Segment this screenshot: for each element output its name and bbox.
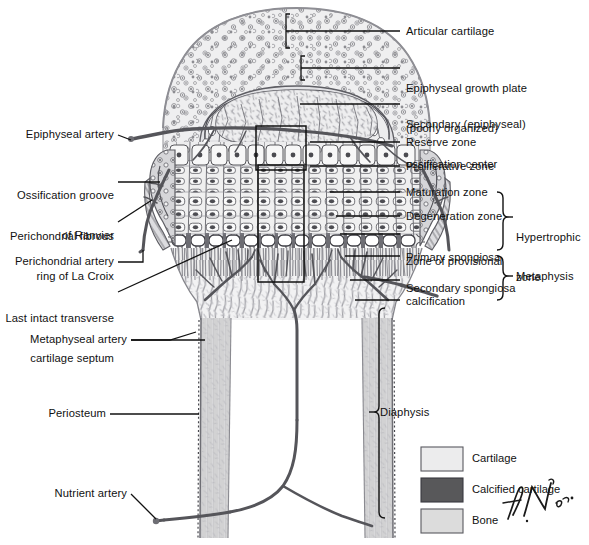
growth-plate-region	[166, 142, 428, 248]
label-primary-spongiosa: Primary spongiosa	[406, 251, 500, 264]
label-perichondrial-fibrous-ring-line2: ring of La Croix	[0, 270, 114, 283]
label-zone-of-provisional-calcification-line2: calcification	[406, 295, 502, 308]
label-diaphysis: Diaphysis	[380, 406, 429, 419]
label-primary-spongiosa-line1: Primary spongiosa	[406, 251, 500, 263]
label-degeneration-zone: Degeneration zone	[406, 210, 502, 223]
label-proliferative-zone-line1: Proliferative zone	[406, 160, 494, 172]
label-nutrient-artery-line1: Nutrient artery	[55, 487, 127, 499]
label-hypertrophic-zone-line1: Hypertrophic	[516, 231, 581, 244]
label-reserve-zone-line1: Reserve zone	[406, 136, 476, 148]
label-hypertrophic-zone: Hypertrophic zone	[516, 204, 581, 311]
legend-label-bone: Bone	[472, 514, 498, 527]
label-maturation-zone-line1: Maturation zone	[406, 186, 488, 198]
figure-root: Articular cartilage Epiphyseal growth pl…	[0, 0, 589, 545]
label-diaphysis-line1: Diaphysis	[380, 406, 429, 418]
label-metaphyseal-artery: Metaphyseal artery	[0, 333, 127, 346]
label-ossification-groove-of-ranvier-line1: Ossification groove	[0, 189, 114, 202]
label-secondary-spongiosa-line1: Secondary spongiosa	[406, 282, 516, 294]
legend-label-calcified-cartilage-text: Calcified cartilage	[472, 483, 560, 495]
label-periosteum-line1: Periosteum	[48, 407, 106, 419]
label-epiphyseal-artery: Epiphyseal artery	[0, 128, 114, 141]
label-proliferative-zone: Proliferative zone	[406, 160, 494, 173]
label-epiphyseal-artery-line1: Epiphyseal artery	[26, 128, 114, 140]
label-last-intact-septum-line1: Last intact transverse	[0, 312, 114, 325]
legend-swatches	[421, 447, 463, 533]
label-perichondrial-fibrous-ring-line1: Perichondrial fibrous	[0, 230, 114, 243]
label-degeneration-zone-line1: Degeneration zone	[406, 210, 502, 222]
label-secondary-ossification-center-line1: Secondary (epiphyseal)	[406, 118, 526, 131]
label-metaphysis-line1: Metaphysis	[516, 270, 574, 282]
legend-label-bone-text: Bone	[472, 514, 498, 526]
legend-label-cartilage: Cartilage	[472, 452, 517, 465]
label-perichondrial-artery: Perichondrial artery	[0, 255, 114, 268]
label-articular-cartilage: Articular cartilage	[406, 25, 494, 38]
label-metaphyseal-artery-line1: Metaphyseal artery	[30, 333, 127, 345]
legend-label-calcified-cartilage: Calcified cartilage	[472, 483, 560, 496]
label-maturation-zone: Maturation zone	[406, 186, 488, 199]
label-last-intact-septum-line2: cartilage septum	[0, 352, 114, 365]
label-reserve-zone: Reserve zone	[406, 136, 476, 149]
label-secondary-spongiosa: Secondary spongiosa	[406, 282, 516, 295]
label-metaphysis: Metaphysis	[516, 270, 574, 283]
label-nutrient-artery: Nutrient artery	[0, 487, 127, 500]
label-articular-cartilage-line1: Articular cartilage	[406, 25, 494, 37]
label-periosteum: Periosteum	[0, 407, 106, 420]
legend-label-cartilage-text: Cartilage	[472, 452, 517, 464]
label-perichondrial-artery-line1: Perichondrial artery	[15, 255, 114, 267]
